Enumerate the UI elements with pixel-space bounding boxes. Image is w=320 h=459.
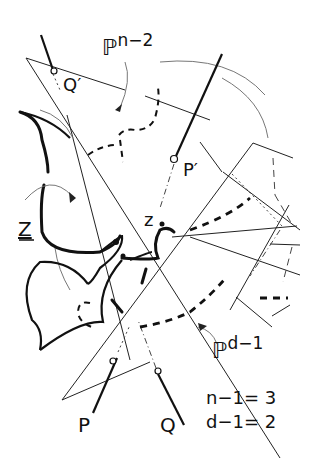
arrows — [25, 62, 217, 344]
point-p-prime — [171, 156, 178, 163]
label-p-n2: ℙn−2 — [102, 30, 153, 60]
diagram-canvas: ℙn−2 Q′ P′ Z z ℙd−1 P Q n−1= 3 d−1= 2 — [0, 0, 320, 459]
label-p: P — [78, 413, 90, 437]
point-z — [160, 222, 165, 227]
point-p — [110, 358, 116, 364]
auxiliary-lines — [232, 158, 293, 282]
arc-curves — [40, 61, 268, 290]
arrow-z — [25, 185, 72, 200]
label-p-prime: P′ — [183, 159, 198, 180]
point-q — [155, 368, 161, 374]
labels: ℙn−2 Q′ P′ Z z ℙd−1 P Q n−1= 3 d−1= 2 — [18, 30, 276, 437]
point-q-prime — [51, 68, 57, 74]
label-z-lower: z — [144, 209, 153, 230]
equation-d: d−1= 2 — [206, 411, 276, 432]
label-q: Q — [160, 413, 176, 437]
equation-n: n−1= 3 — [206, 387, 276, 408]
dashed-curves — [78, 88, 288, 328]
arrow-p-n2 — [120, 62, 128, 108]
points — [51, 68, 178, 374]
label-p-d1: ℙd−1 — [212, 333, 263, 363]
label-q-prime: Q′ — [63, 74, 81, 95]
label-z-upper: Z — [18, 217, 32, 241]
